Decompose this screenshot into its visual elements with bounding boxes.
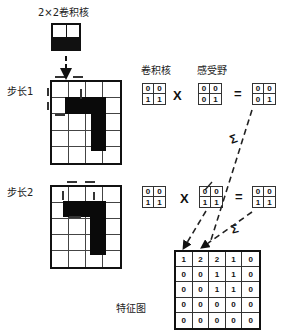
feature-cell: 2 [209, 252, 226, 267]
feature-cell: 0 [176, 282, 193, 297]
feature-cell: 0 [226, 298, 243, 313]
feature-cell: 0 [242, 267, 259, 282]
feature-cell: 0 [242, 298, 259, 313]
step2-receptive-arrow-icon [185, 211, 206, 246]
feature-cell: 0 [242, 252, 259, 267]
feature-cell: 0 [209, 298, 226, 313]
feature-cell: 0 [226, 313, 243, 328]
feature-cell: 0 [242, 313, 259, 328]
feature-cell: 0 [193, 298, 210, 313]
feature-cell: 1 [176, 252, 193, 267]
feature-cell: 0 [176, 267, 193, 282]
feature-cell: 1 [209, 267, 226, 282]
feature-map-label: 特征图 [116, 300, 146, 315]
feature-cell: 1 [226, 282, 243, 297]
feature-cell: 0 [242, 282, 259, 297]
feature-cell: 0 [209, 313, 226, 328]
feature-cell: 0 [176, 313, 193, 328]
feature-cell: 1 [209, 282, 226, 297]
feature-cell: 0 [193, 267, 210, 282]
step1-sum-arrow-icon [211, 110, 252, 240]
step2-sum-arrow-icon [204, 212, 252, 246]
feature-cell: 1 [226, 267, 243, 282]
feature-cell: 0 [176, 298, 193, 313]
feature-cell: 1 [226, 252, 243, 267]
feature-map: 1 2 2 1 0 0 0 1 1 0 0 0 1 1 0 0 0 0 0 0 … [174, 250, 261, 330]
feature-cell: 0 [193, 313, 210, 328]
feature-cell: 0 [193, 282, 210, 297]
feature-cell: 2 [193, 252, 210, 267]
